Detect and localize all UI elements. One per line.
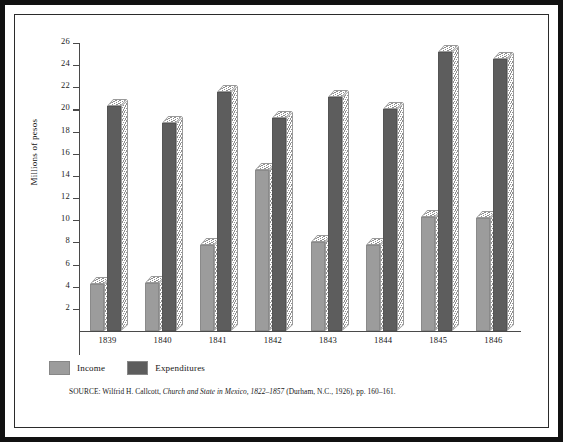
bar-group: 1842: [245, 43, 300, 331]
bar-expenditures-1844: [383, 109, 397, 331]
y-axis-tick-label: 8: [66, 235, 70, 245]
chart-content-area: Millions of pesos 2468101214161820222426…: [21, 21, 542, 421]
source-title: Church and State in Mexico, 1822–1857: [163, 387, 284, 396]
bar-group: 1846: [466, 43, 521, 331]
x-axis-tick-label: 1842: [245, 335, 300, 345]
bar-expenditures-1839: [107, 106, 121, 331]
y-axis-tick-mark: [73, 287, 79, 288]
bar-face: [255, 170, 269, 331]
bar-income-1846: [476, 218, 490, 331]
x-axis-tick-label: 1841: [190, 335, 245, 345]
y-axis-tick-mark: [73, 65, 79, 66]
bar-side-facet: [176, 116, 183, 331]
bar-group: 1841: [190, 43, 245, 331]
source-suffix: (Durham, N.C., 1926), pp. 160–161.: [286, 387, 395, 396]
bar-face: [476, 218, 490, 331]
bar-face: [328, 97, 342, 331]
legend-swatch: [49, 361, 70, 375]
bar-face: [311, 242, 325, 331]
y-axis-tick-label: 26: [61, 36, 70, 46]
source-note: SOURCE: Wilfrid H. Callcott, Church and …: [69, 387, 529, 397]
bar-expenditures-1846: [493, 59, 507, 331]
legend-item-income: Income: [49, 361, 105, 375]
x-axis-tick-label: 1839: [80, 335, 135, 345]
y-axis-tick-mark: [73, 109, 79, 110]
bar-group: 1843: [301, 43, 356, 331]
y-axis-tick-label: 14: [61, 169, 70, 179]
bar-face: [383, 109, 397, 331]
x-axis-tick-label: 1845: [411, 335, 466, 345]
y-axis-tick-label: 16: [61, 147, 70, 157]
bar-expenditures-1842: [272, 118, 286, 331]
source-prefix: SOURCE: Wilfrid H. Callcott,: [69, 387, 161, 396]
bar-side-facet: [507, 52, 514, 331]
bar-face: [421, 217, 435, 331]
y-axis-tick-label: 10: [61, 213, 70, 223]
plot-area: 18391840184118421843184418451846: [80, 43, 521, 331]
bar-face: [272, 118, 286, 331]
y-axis-tick-label: 22: [61, 80, 70, 90]
x-axis-tick-label: 1846: [466, 335, 521, 345]
bar-face: [200, 245, 214, 331]
y-axis-tick-label: 6: [66, 258, 70, 268]
y-axis-tick-mark: [73, 242, 79, 243]
y-axis-tick-label: 24: [61, 58, 70, 68]
bar-income-1841: [200, 245, 214, 331]
x-axis-tick-label: 1840: [135, 335, 190, 345]
legend-item-expenditures: Expenditures: [127, 361, 205, 375]
y-axis-tick-label: 20: [61, 102, 70, 112]
y-axis-tick-label: 2: [66, 302, 70, 312]
bar-side-facet: [231, 85, 238, 331]
bar-side-facet: [342, 91, 349, 331]
bar-income-1840: [145, 283, 159, 331]
y-axis: Millions of pesos 2468101214161820222426: [21, 21, 79, 355]
y-axis-title: Millions of pesos: [29, 77, 39, 227]
plot-baseline: [79, 331, 521, 332]
bar-face: [162, 123, 176, 331]
y-axis-tick-mark: [73, 43, 79, 44]
bar-face: [107, 106, 121, 331]
bar-income-1844: [366, 245, 380, 331]
x-axis-tick-label: 1844: [356, 335, 411, 345]
legend-label: Expenditures: [155, 363, 205, 373]
y-axis-tick-mark: [73, 198, 79, 199]
bar-group: 1844: [356, 43, 411, 331]
y-axis-tick-mark: [73, 309, 79, 310]
y-axis-tick-mark: [73, 220, 79, 221]
bar-face: [493, 59, 507, 331]
bar-face: [90, 284, 104, 331]
bar-income-1845: [421, 217, 435, 331]
legend-label: Income: [77, 363, 105, 373]
legend: IncomeExpenditures: [49, 357, 519, 379]
bar-face: [145, 283, 159, 331]
bar-income-1839: [90, 284, 104, 331]
bar-expenditures-1843: [328, 97, 342, 331]
bar-expenditures-1841: [217, 92, 231, 331]
bar-side-facet: [452, 46, 459, 331]
y-axis-tick-mark: [73, 176, 79, 177]
x-axis-tick-label: 1843: [301, 335, 356, 345]
bar-side-facet: [121, 100, 128, 331]
bar-side-facet: [286, 112, 293, 331]
bar-expenditures-1840: [162, 123, 176, 331]
bar-face: [438, 52, 452, 331]
y-axis-tick-label: 12: [61, 191, 70, 201]
bar-face: [366, 245, 380, 331]
y-axis-tick-mark: [73, 154, 79, 155]
bar-side-facet: [397, 103, 404, 331]
bar-group: 1839: [80, 43, 135, 331]
y-axis-tick-label: 4: [66, 280, 70, 290]
bar-income-1843: [311, 242, 325, 331]
bar-group: 1845: [411, 43, 466, 331]
figure-plate: Millions of pesos 2468101214161820222426…: [0, 0, 563, 442]
bar-expenditures-1845: [438, 52, 452, 331]
bar-group: 1840: [135, 43, 190, 331]
y-axis-tick-label: 18: [61, 125, 70, 135]
y-axis-tick-mark: [73, 265, 79, 266]
legend-swatch: [127, 361, 148, 375]
chart-frame: Millions of pesos 2468101214161820222426…: [21, 21, 542, 343]
y-axis-tick-mark: [73, 132, 79, 133]
bar-income-1842: [255, 170, 269, 331]
y-axis-tick-mark: [73, 87, 79, 88]
bar-face: [217, 92, 231, 331]
